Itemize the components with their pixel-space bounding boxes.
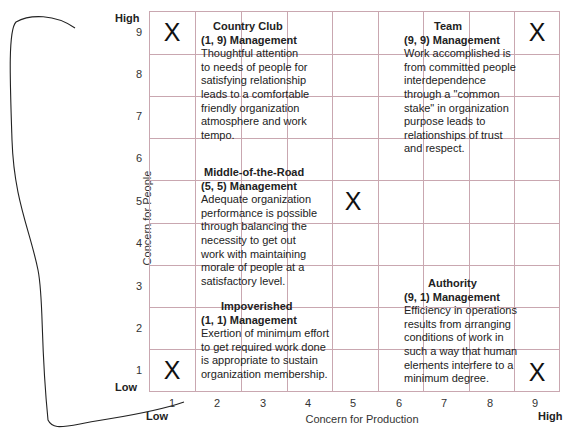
x-tick: 2: [207, 397, 227, 409]
impoverished-box: Impoverished (1, 1) Management Exertion …: [201, 300, 371, 382]
middle-of-the-road-box: Middle-of-the-Road (5, 5) Management Ade…: [201, 166, 351, 288]
y-tick: 9: [122, 26, 142, 38]
y-tick: 6: [122, 152, 142, 164]
y-high-label: High: [115, 12, 139, 24]
x-low-label: Low: [146, 410, 168, 422]
y-tick: 8: [122, 68, 142, 80]
country-club-box: Country Club (1, 9) Management Thoughtfu…: [201, 20, 351, 142]
authority-box: Authority (9, 1) Management Efficiency i…: [404, 277, 554, 386]
y-tick: 1: [122, 364, 142, 376]
x-tick: 5: [343, 397, 363, 409]
x-tick: 8: [480, 397, 500, 409]
y-tick: 2: [122, 322, 142, 334]
x-tick: 9: [525, 397, 545, 409]
y-tick: 3: [122, 280, 142, 292]
team-box: Team (9, 9) Management Work accomplished…: [404, 20, 554, 156]
x-tick: 6: [389, 397, 409, 409]
x-tick: 3: [253, 397, 273, 409]
x-marker-1-9: X: [157, 20, 187, 45]
y-tick: 7: [122, 110, 142, 122]
y-tick: 4: [122, 237, 142, 249]
x-high-label: High: [538, 410, 562, 422]
y-low-label: Low: [115, 381, 137, 393]
x-tick: 4: [298, 397, 318, 409]
x-marker-1-1: X: [157, 358, 187, 383]
x-tick: 1: [162, 397, 182, 409]
x-tick: 7: [434, 397, 454, 409]
y-tick: 5: [122, 195, 142, 207]
x-axis-label: Concern for Production: [282, 413, 442, 425]
